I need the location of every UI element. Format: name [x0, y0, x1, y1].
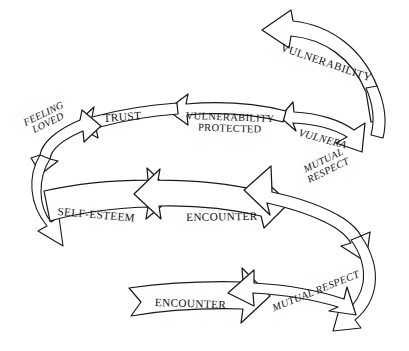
label-vulnerability-protected: VULNERABILITY PROTECTED [185, 110, 275, 135]
label-encounter-bottom: ENCOUNTER [155, 297, 227, 311]
label-encounter-mid: ENCOUNTER [186, 211, 258, 224]
spiral-diagram: VULNERABILITY FEELING LOVED TRUST VULNER… [0, 0, 409, 351]
